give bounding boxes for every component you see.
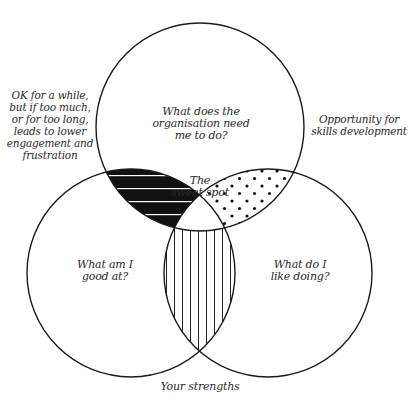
label-top-circle: What does the organisation need me to do… xyxy=(140,106,262,142)
venn-svg xyxy=(0,0,413,408)
label-sweet-spot: The sweet spot xyxy=(168,175,232,199)
annotation-right: Opportunity for skills development xyxy=(306,113,412,137)
label-bottom-right-circle: What do I like doing? xyxy=(255,259,345,283)
region-bottom-overlap xyxy=(0,0,413,408)
annotation-left: OK for a while, but if too much, or for … xyxy=(2,89,98,161)
annotation-bottom: Your strengths xyxy=(150,381,250,393)
label-bottom-left-circle: What am I good at? xyxy=(60,259,150,283)
venn-diagram: What does the organisation need me to do… xyxy=(0,0,413,408)
